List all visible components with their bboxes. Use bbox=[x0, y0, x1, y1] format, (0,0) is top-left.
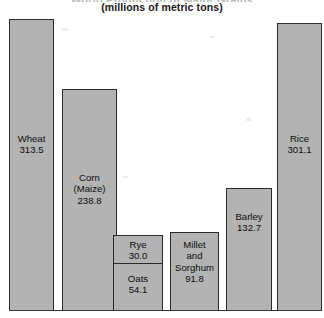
bar-label-millet-sorghum: Millet and Sorghum 91.8 bbox=[171, 239, 218, 285]
bar-wheat[interactable]: Wheat 313.5 bbox=[9, 19, 54, 311]
scan-speck bbox=[246, 118, 251, 121]
plot-area: Wheat 313.5 Corn (Maize) 238.8 Rye 30.0 … bbox=[0, 0, 324, 318]
bar-label-rice: Rice 301.1 bbox=[278, 133, 321, 156]
bar-label-corn: Corn (Maize) 238.8 bbox=[63, 172, 116, 206]
scan-speck bbox=[210, 36, 215, 38]
bar-label-oats: Oats 54.1 bbox=[114, 273, 162, 296]
chart-baseline bbox=[9, 310, 322, 311]
grain-production-bar-chart: World Production of Major Grains (millio… bbox=[0, 0, 324, 318]
bar-millet-sorghum[interactable]: Millet and Sorghum 91.8 bbox=[170, 232, 219, 311]
scan-speck bbox=[62, 28, 68, 31]
scan-speck bbox=[123, 176, 128, 178]
bar-corn[interactable]: Corn (Maize) 238.8 bbox=[62, 89, 117, 311]
bar-rice[interactable]: Rice 301.1 bbox=[277, 23, 322, 311]
bar-oats[interactable]: Oats 54.1 bbox=[113, 263, 163, 311]
bar-barley[interactable]: Barley 132.7 bbox=[226, 188, 272, 311]
bar-label-barley: Barley 132.7 bbox=[227, 211, 271, 234]
bar-label-wheat: Wheat 313.5 bbox=[10, 133, 53, 156]
bar-label-rye: Rye 30.0 bbox=[114, 239, 162, 262]
bar-rye[interactable]: Rye 30.0 bbox=[113, 235, 163, 264]
